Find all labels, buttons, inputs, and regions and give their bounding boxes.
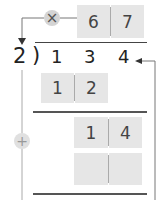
subtraction-line [33,111,147,113]
remainder-digit-box[interactable]: 1 [74,117,108,148]
answer-input-box[interactable] [109,153,142,185]
product-digit-box[interactable]: 2 [75,73,108,103]
quotient-digit-box[interactable]: 7 [111,5,144,38]
dividend-digit: 3 [84,48,95,66]
product-digit-box[interactable]: 1 [41,73,74,103]
subtraction-line [33,193,147,195]
dividend-digit: 4 [118,48,129,66]
plus-operator-icon: + [14,133,30,149]
quotient-digit-box[interactable]: 6 [77,5,110,38]
multiply-operator-icon: × [44,10,60,26]
divisor: 2 [13,46,26,67]
division-bracket: ) [32,45,40,66]
answer-input-box[interactable] [74,153,108,185]
remainder-digit-box[interactable]: 4 [109,117,142,148]
division-overline [35,42,147,43]
dividend-digit: 1 [51,48,62,66]
